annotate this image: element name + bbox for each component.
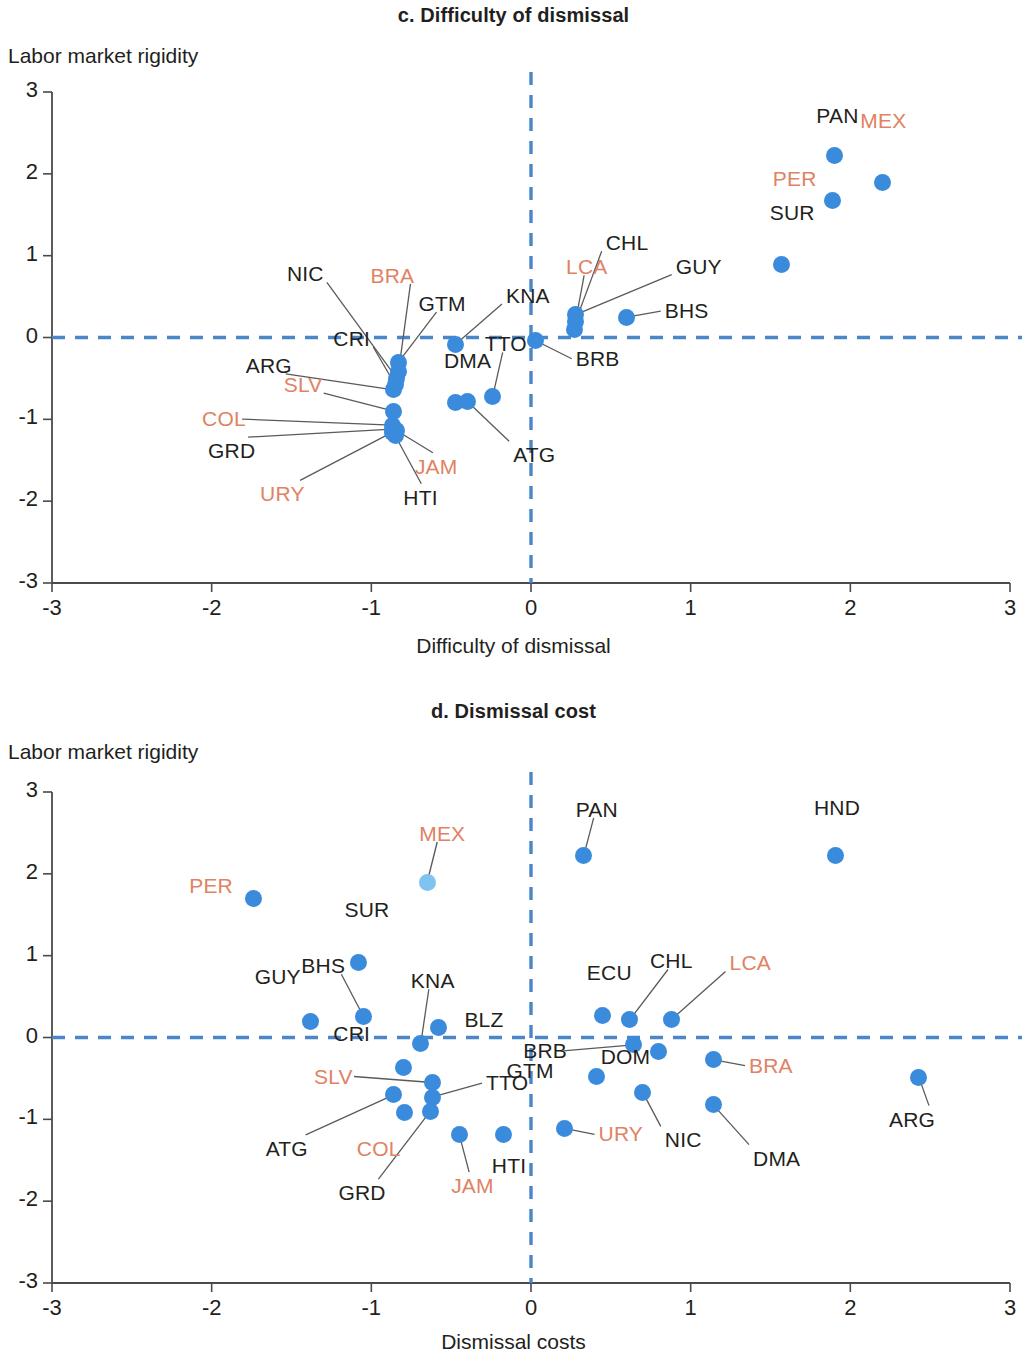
scatter-point-label: CRI <box>333 327 370 351</box>
scatter-point[interactable] <box>412 1035 429 1052</box>
x-tick-label: 2 <box>822 1295 878 1321</box>
x-tick-label: -3 <box>24 595 80 621</box>
label-leader-line <box>248 429 392 437</box>
panel-c-x-axis-title: Difficulty of dismissal <box>0 634 1027 658</box>
x-tick-label: 3 <box>982 595 1027 621</box>
scatter-point-label: PER <box>189 874 233 898</box>
scatter-point-label: DMA <box>753 1147 800 1171</box>
y-tick-label: -1 <box>0 404 38 430</box>
scatter-point-label: TTO <box>485 332 527 356</box>
y-tick-label: 1 <box>0 241 38 267</box>
y-tick-label: -3 <box>0 1268 38 1294</box>
y-tick-label: -3 <box>0 568 38 594</box>
x-tick-label: 0 <box>503 1295 559 1321</box>
scatter-point-label: BRB <box>576 347 620 371</box>
scatter-point[interactable] <box>705 1096 722 1113</box>
scatter-point-label: PER <box>773 167 817 191</box>
label-leader-line <box>242 419 392 425</box>
scatter-point[interactable] <box>556 1120 573 1137</box>
scatter-point-label: GUY <box>255 965 301 989</box>
scatter-point[interactable] <box>618 309 635 326</box>
scatter-point-label: BHS <box>301 954 345 978</box>
y-tick-label: -2 <box>0 486 38 512</box>
label-leader-line <box>324 393 394 411</box>
x-tick-label: 1 <box>663 595 719 621</box>
scatter-point-label: BHS <box>665 299 709 323</box>
scatter-point-label: ATG <box>266 1137 308 1161</box>
label-leader-line <box>354 1077 432 1083</box>
panel-d-axes <box>0 682 1027 1364</box>
scatter-point-label: DOM <box>601 1045 651 1069</box>
scatter-point-label: URY <box>599 1122 644 1146</box>
x-tick-label: -1 <box>343 595 399 621</box>
scatter-point[interactable] <box>650 1043 667 1060</box>
scatter-point[interactable] <box>459 393 476 410</box>
y-tick-label: 3 <box>0 777 38 803</box>
scatter-point-label: GTM <box>418 292 465 316</box>
scatter-point-label: PAN <box>576 798 618 822</box>
x-tick-label: 0 <box>503 595 559 621</box>
scatter-point-label: LCA <box>730 951 771 975</box>
scatter-point-label: HTI <box>403 486 437 510</box>
y-tick-label: 2 <box>0 859 38 885</box>
y-tick-label: -1 <box>0 1104 38 1130</box>
y-tick-label: 1 <box>0 941 38 967</box>
scatter-point[interactable] <box>705 1051 722 1068</box>
label-leader-line <box>300 432 392 480</box>
scatter-point-label: PAN <box>816 104 858 128</box>
y-tick-label: 0 <box>0 323 38 349</box>
y-tick-label: 3 <box>0 77 38 103</box>
scatter-point-label: GRD <box>338 1181 385 1205</box>
scatter-point-label: CHL <box>650 949 693 973</box>
x-tick-label: 1 <box>663 1295 719 1321</box>
x-tick-label: -2 <box>184 1295 240 1321</box>
scatter-point[interactable] <box>495 1126 512 1143</box>
scatter-point-label: JAM <box>415 455 458 479</box>
scatter-point-label: KNA <box>506 284 550 308</box>
scatter-point[interactable] <box>419 874 436 891</box>
panel-difficulty-of-dismissal: c. Difficulty of dismissal Labor market … <box>0 0 1027 682</box>
scatter-point-label: TTO <box>486 1071 528 1095</box>
panel-d-x-axis-title: Dismissal costs <box>0 1330 1027 1354</box>
scatter-point[interactable] <box>663 1011 680 1028</box>
x-tick-label: -1 <box>343 1295 399 1321</box>
label-leader-line <box>672 971 726 1019</box>
scatter-point-label: MEX <box>860 109 906 133</box>
scatter-point-label: SLV <box>314 1065 353 1089</box>
y-tick-label: -2 <box>0 1186 38 1212</box>
scatter-point[interactable] <box>350 954 367 971</box>
scatter-point-label: HTI <box>492 1154 526 1178</box>
scatter-point-label: LCA <box>566 255 607 279</box>
scatter-point[interactable] <box>422 1103 439 1120</box>
scatter-point[interactable] <box>245 890 262 907</box>
scatter-point[interactable] <box>395 1059 412 1076</box>
scatter-point-label: BLZ <box>464 1008 503 1032</box>
scatter-point[interactable] <box>634 1084 651 1101</box>
y-tick-label: 0 <box>0 1023 38 1049</box>
scatter-point-label: GRD <box>208 439 255 463</box>
scatter-point-label: BRA <box>749 1054 793 1078</box>
panel-dismissal-cost: d. Dismissal cost Labor market rigidity … <box>0 682 1027 1364</box>
scatter-point[interactable] <box>430 1019 447 1036</box>
scatter-point-label: URY <box>260 482 305 506</box>
scatter-point-label: SLV <box>284 373 323 397</box>
scatter-point-label: NIC <box>287 262 324 286</box>
scatter-point-label: JAM <box>451 1174 494 1198</box>
scatter-point-label: CRI <box>333 1022 370 1046</box>
scatter-point[interactable] <box>484 388 501 405</box>
scatter-point-label: HND <box>814 796 860 820</box>
panel-c-plot-area: -3-2-101233210-1-2-3PANMEXPERSURGUYCHLLC… <box>0 0 1027 682</box>
x-tick-label: -3 <box>24 1295 80 1321</box>
scatter-point[interactable] <box>302 1013 319 1030</box>
scatter-point[interactable] <box>874 174 891 191</box>
label-leader-line <box>306 1095 394 1135</box>
scatter-point-label: COL <box>357 1137 401 1161</box>
y-tick-label: 2 <box>0 159 38 185</box>
scatter-point-label: ATG <box>513 443 555 467</box>
scatter-point-label: GUY <box>676 255 722 279</box>
scatter-point-label: ARG <box>889 1108 935 1132</box>
x-tick-label: -2 <box>184 595 240 621</box>
scatter-point[interactable] <box>566 321 583 338</box>
panel-d-plot-area: -3-2-101233210-1-2-3PANHNDMEXPERSURBHSGU… <box>0 682 1027 1364</box>
scatter-point[interactable] <box>451 1126 468 1143</box>
